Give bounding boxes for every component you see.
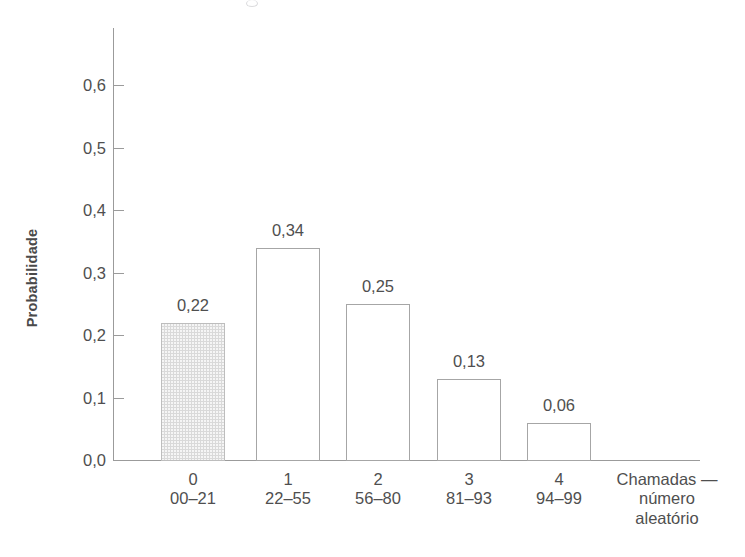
y-axis-tick-label: 0,1 <box>58 390 106 407</box>
bar-value-label: 0,34 <box>236 222 340 239</box>
x-axis-title: Chamadas — número aleatório <box>592 470 742 528</box>
y-axis-tick-label: 0,3 <box>58 265 106 282</box>
y-axis-tick <box>113 85 124 86</box>
y-axis-tick <box>113 210 124 211</box>
bar-value-label: 0,22 <box>141 297 245 314</box>
y-axis-tick <box>113 398 124 399</box>
y-axis-tick <box>113 335 124 336</box>
y-axis-tick-label: 0,2 <box>58 327 106 344</box>
bar <box>256 248 320 462</box>
y-axis-line <box>113 28 114 461</box>
bar <box>437 379 501 461</box>
y-axis-tick <box>113 273 124 274</box>
y-axis-title: Probabilidade <box>24 208 40 348</box>
bar-value-label: 0,13 <box>417 353 521 370</box>
bar <box>346 304 410 461</box>
bar <box>527 423 591 462</box>
bar-value-label: 0,06 <box>507 397 611 414</box>
y-axis-tick-label: 0,5 <box>58 140 106 157</box>
y-axis-tick-label: 0,4 <box>58 202 106 219</box>
plot-area: Probabilidade 0,00,10,20,30,40,50,6 0,22… <box>0 0 745 557</box>
y-axis-tick <box>113 148 124 149</box>
y-axis-tick-label: 0,0 <box>58 452 106 469</box>
bar <box>161 323 225 462</box>
x-axis-title-line-3: aleatório <box>592 509 742 528</box>
chart-figure: Probabilidade 0,00,10,20,30,40,50,6 0,22… <box>0 0 745 557</box>
x-axis-title-line-1: Chamadas — <box>592 470 742 489</box>
y-axis-tick-label: 0,6 <box>58 77 106 94</box>
bar-value-label: 0,25 <box>326 278 430 295</box>
x-axis-title-line-2: número <box>592 489 742 508</box>
